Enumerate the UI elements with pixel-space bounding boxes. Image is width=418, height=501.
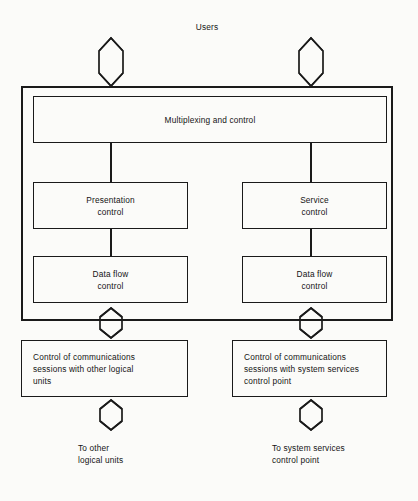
diagram-canvas: Users Multiplexing and control Presentat… — [0, 0, 418, 501]
label-to-system-services-control-point: To system services control point — [272, 443, 402, 466]
box-data-flow-control-left: Data flow control — [33, 256, 188, 303]
arrow-sessions-left-to-other-logical-units-icon — [96, 398, 126, 432]
box-control-of-sessions-system-services-control-point-label: Control of communications sessions with … — [233, 351, 359, 387]
box-data-flow-control-left-label: Data flow control — [93, 268, 129, 292]
arrow-users-to-multiplexing-right-icon — [296, 36, 326, 88]
box-presentation-control-label: Presentation control — [86, 194, 134, 218]
arrow-users-to-multiplexing-left-icon — [96, 36, 126, 88]
label-to-other-logical-units: To other logical units — [78, 443, 188, 466]
connector-multiplexing-to-service — [310, 143, 312, 182]
connector-service-to-data-flow-right — [310, 229, 312, 256]
box-control-of-sessions-other-logical-units: Control of communications sessions with … — [21, 340, 188, 397]
arrow-sessions-right-to-sscp-icon — [296, 398, 326, 432]
box-service-control: Service control — [242, 182, 387, 229]
box-presentation-control: Presentation control — [33, 182, 188, 229]
box-data-flow-control-right: Data flow control — [242, 256, 387, 303]
box-multiplexing-and-control-label: Multiplexing and control — [165, 114, 256, 126]
connector-presentation-to-data-flow-left — [110, 229, 112, 256]
arrow-data-flow-left-to-sessions-left-icon — [96, 306, 126, 340]
connector-multiplexing-to-presentation — [110, 143, 112, 182]
box-control-of-sessions-other-logical-units-label: Control of communications sessions with … — [22, 351, 135, 387]
arrow-data-flow-right-to-sessions-right-icon — [296, 306, 326, 340]
box-data-flow-control-right-label: Data flow control — [297, 268, 333, 292]
box-service-control-label: Service control — [300, 194, 329, 218]
box-control-of-sessions-system-services-control-point: Control of communications sessions with … — [232, 340, 387, 397]
users-label: Users — [167, 22, 247, 34]
box-multiplexing-and-control: Multiplexing and control — [33, 96, 387, 143]
